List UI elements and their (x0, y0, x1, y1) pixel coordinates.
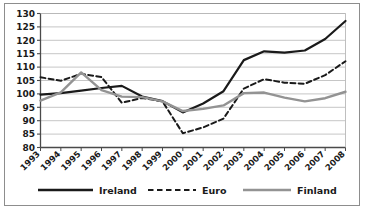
chart-page: 80859095100105110115120125130 1993199419… (0, 0, 368, 212)
x-tick-label: 1996 (79, 149, 103, 173)
series-line-finland (41, 72, 346, 111)
x-tick-label: 2008 (323, 149, 347, 173)
x-tick-label: 2004 (242, 149, 266, 173)
x-tick-label: 2000 (160, 149, 184, 173)
x-axis-tick-labels: 1993199419951996199719981999200020012002… (18, 149, 347, 173)
x-tick-label: 1997 (99, 149, 123, 173)
y-axis-tick-labels: 80859095100105110115120125130 (16, 9, 40, 153)
y-tick-label: 115 (16, 49, 35, 59)
x-tick-label: 1999 (140, 149, 164, 173)
y-tick-label: 120 (16, 36, 35, 46)
y-tick-label: 105 (16, 76, 35, 86)
y-tick-label: 100 (16, 89, 35, 99)
gridlines (41, 14, 346, 148)
series-line-ireland (41, 21, 346, 112)
x-tick-label: 1998 (120, 149, 144, 173)
y-tick-label: 125 (16, 22, 35, 32)
x-tick-label: 1995 (59, 149, 83, 173)
legend-label-ireland: Ireland (99, 185, 137, 196)
x-tick-label: 2003 (221, 149, 245, 173)
legend-label-euro: Euro (202, 185, 227, 196)
x-tick-label: 2007 (303, 149, 327, 173)
y-tick-label: 90 (22, 116, 35, 126)
chart-legend: IrelandEuroFinland (38, 185, 337, 196)
y-tick-label: 130 (16, 9, 35, 19)
series-line-euro (41, 61, 346, 133)
x-tick-label: 2005 (262, 149, 286, 173)
x-tick-label: 2006 (282, 149, 306, 173)
line-chart: 80859095100105110115120125130 1993199419… (0, 0, 368, 212)
legend-label-finland: Finland (297, 185, 337, 196)
y-tick-label: 110 (16, 62, 35, 72)
x-tick-label: 1994 (38, 149, 62, 173)
data-series-layer (41, 21, 346, 133)
y-tick-label: 95 (22, 103, 35, 113)
y-tick-label: 85 (22, 129, 35, 139)
x-tick-label: 2001 (181, 149, 205, 173)
x-tick-label: 2002 (201, 149, 225, 173)
